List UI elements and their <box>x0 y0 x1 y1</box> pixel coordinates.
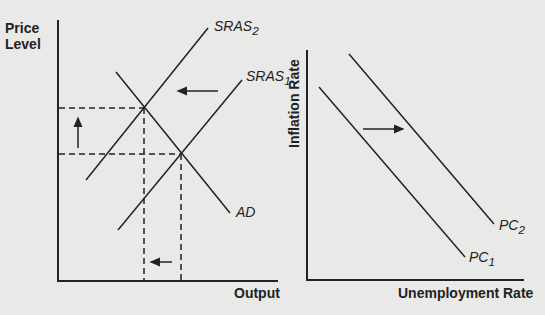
sras2-curve <box>86 28 208 180</box>
sras1-curve <box>118 80 242 230</box>
diagram-canvas <box>0 0 545 315</box>
unemployment-rate-label: Unemployment Rate <box>398 285 533 301</box>
pc2-sub: 2 <box>518 223 524 236</box>
sras2-base: SRAS <box>214 18 252 34</box>
ad-curve <box>116 72 230 213</box>
pc2-label: PC2 <box>499 217 525 236</box>
price-label-line1: Price <box>5 20 41 36</box>
sras1-base: SRAS <box>246 68 284 84</box>
sras2-label: SRAS2 <box>214 18 259 37</box>
pc1-label: PC1 <box>469 249 495 268</box>
pc1-curve <box>319 87 465 257</box>
pc2-curve <box>349 54 494 224</box>
inflation-rate-label: Inflation Rate <box>286 59 302 148</box>
left-axes <box>57 20 278 281</box>
ad-label: AD <box>236 204 255 220</box>
pc1-base: PC <box>469 249 488 265</box>
output-label: Output <box>234 285 280 301</box>
price-label-line2: Level <box>5 36 41 52</box>
pc1-sub: 1 <box>488 255 494 268</box>
sras2-sub: 2 <box>252 24 258 37</box>
pc2-base: PC <box>499 217 518 233</box>
price-level-label: Price Level <box>5 20 41 52</box>
right-axes <box>306 50 524 280</box>
sras1-label: SRAS1 <box>246 68 291 87</box>
